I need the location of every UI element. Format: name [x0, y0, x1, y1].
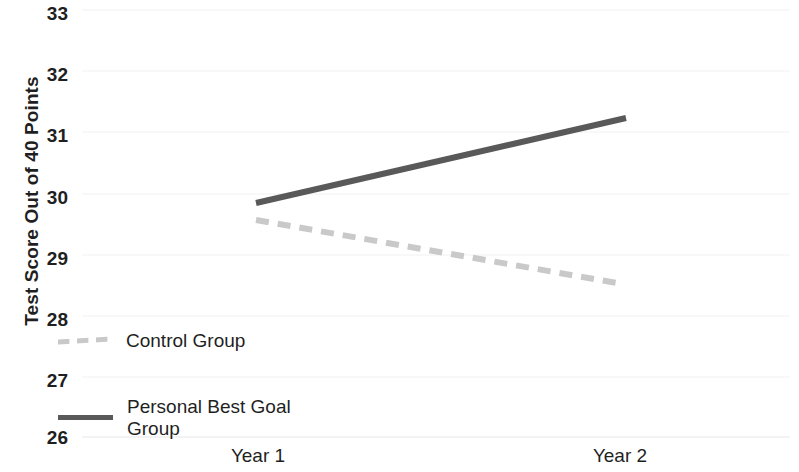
gridlines — [82, 10, 790, 437]
legend-item-control-group: Control Group — [58, 330, 245, 352]
x-axis-tick-year-2: Year 2 — [550, 446, 690, 465]
legend-item-personal-best-goal-group: Personal Best Goal Group — [58, 396, 291, 440]
legend-label-control-group: Control Group — [126, 330, 245, 352]
legend-label-personal-best-goal-group: Personal Best Goal Group — [127, 396, 291, 440]
dashed-line-swatch-icon — [58, 337, 112, 345]
solid-line-swatch-icon — [58, 415, 113, 420]
line-chart: Test Score Out of 40 Points 33 32 31 30 … — [0, 0, 799, 472]
series-line-personal-best-goal-group — [256, 118, 626, 203]
series-line-control-group — [256, 220, 617, 283]
x-axis-tick-year-1: Year 1 — [188, 446, 328, 465]
